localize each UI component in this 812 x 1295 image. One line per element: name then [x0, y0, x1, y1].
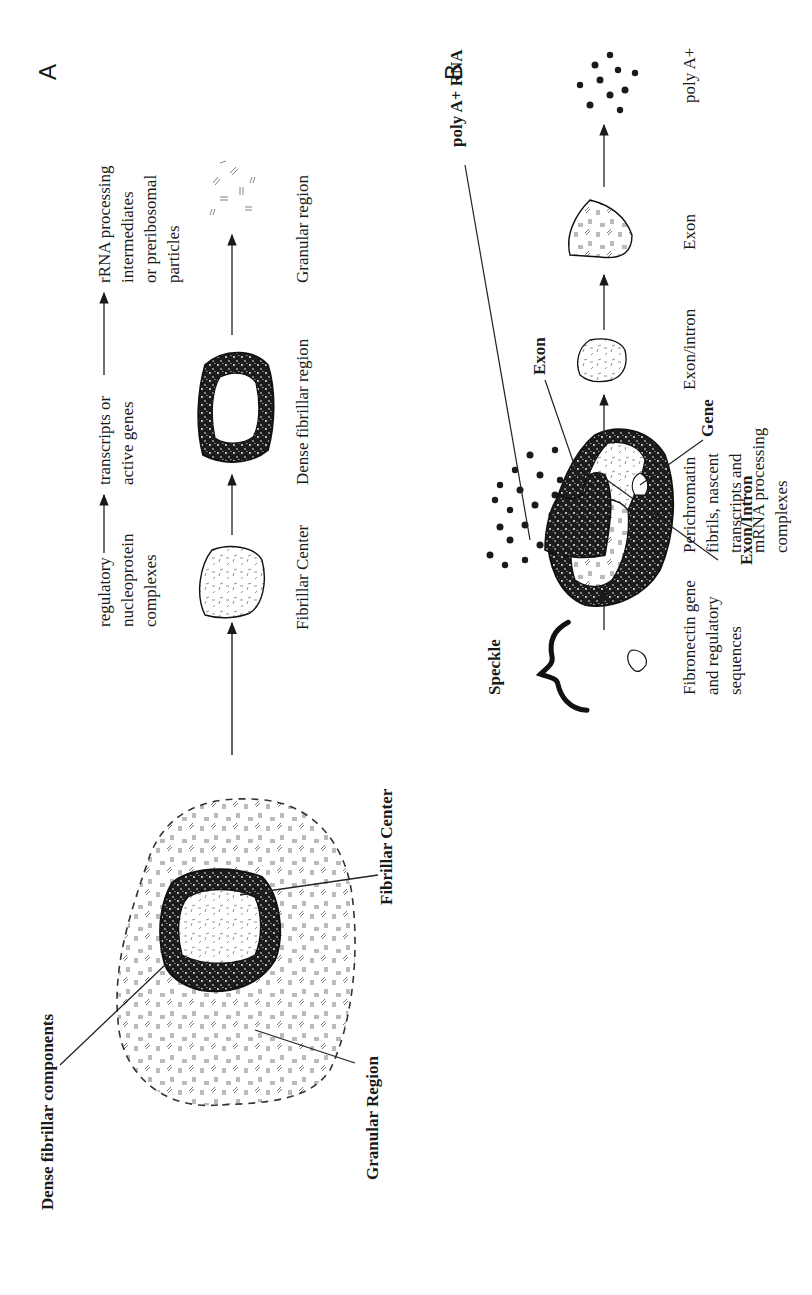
- poly-a-product-dots: [577, 52, 638, 113]
- landscape-figure: A Dense fibrillar components Fibrillar C…: [34, 48, 791, 1210]
- step-transcripts: transcripts or active genes: [95, 392, 137, 485]
- label-gene: Gene: [698, 399, 717, 437]
- label-fibronectin-gene: Fibronectin gene and regulatory sequence…: [680, 576, 745, 695]
- fibrillar-center-shape: [179, 890, 261, 964]
- exon-intron-shape: [578, 339, 626, 382]
- figure-stage: A Dense fibrillar components Fibrillar C…: [0, 0, 812, 1295]
- label-speckle: Speckle: [485, 639, 504, 695]
- label-exon-intron-step: Exon/intron: [680, 308, 699, 390]
- pathway-dense-fibrillar-hole: [212, 373, 259, 443]
- pathway-granular-cluster: [210, 161, 255, 215]
- fibronectin-gene-shape: [628, 650, 647, 671]
- figure-canvas: A Dense fibrillar components Fibrillar C…: [0, 0, 812, 1295]
- pathway-fibrillar-center-shape: [200, 547, 265, 618]
- label-dense-fibrillar-components: Dense fibrillar components: [38, 1013, 57, 1210]
- label-fibrillar-center: Fibrillar Center: [377, 788, 396, 905]
- label-poly-a-rna: poly A+ RNA: [447, 49, 466, 147]
- label-pathway-granular-region: Granular region: [293, 174, 312, 283]
- speckle-brace: [531, 622, 587, 718]
- step-regulatory: regulatory nucleoprotein complexes: [95, 529, 160, 627]
- panel-a-label: A: [34, 64, 61, 80]
- label-poly-a-step: poly A+: [680, 48, 699, 103]
- panel-a-nucleolus: [117, 799, 355, 1106]
- pathway-a-text: regulatory nucleoprotein complexes trans…: [95, 161, 183, 627]
- label-pathway-dense-fibrillar-region: Dense fibrillar region: [293, 338, 312, 485]
- label-exon: Exon: [530, 337, 549, 375]
- label-granular-region: Granular Region: [363, 1056, 382, 1180]
- label-exon-step: Exon: [680, 214, 699, 250]
- step-rrna: rRNA processing intermediates or preribo…: [95, 161, 183, 283]
- exon-shape: [569, 200, 632, 258]
- label-pathway-fibrillar-center: Fibrillar Center: [293, 524, 312, 630]
- label-perichromatin-fibrils: Perichromatin fibrils, nascent transcrip…: [680, 424, 791, 553]
